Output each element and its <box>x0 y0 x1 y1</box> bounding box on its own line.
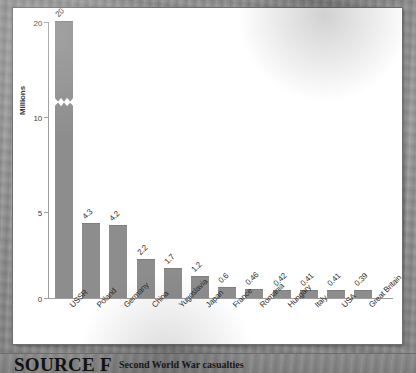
x-category-label: Poland <box>95 303 101 309</box>
x-category-label: Romania <box>258 303 264 309</box>
x-category-label: France <box>231 303 237 309</box>
bar-slot: 20 <box>51 7 78 298</box>
y-tick-label: 10 <box>34 113 43 122</box>
bar-slot: 2.2 <box>133 7 160 298</box>
y-tick-label: 5 <box>38 208 42 217</box>
bar-value-label: 0.39 <box>353 271 370 288</box>
bar-value-label: 4.3 <box>81 207 95 221</box>
y-axis-title: Millions <box>18 86 27 115</box>
x-category-label: Great Britain <box>367 303 373 309</box>
bar <box>327 290 345 298</box>
x-category-label: Italy <box>313 303 319 309</box>
bar-value-label: 2.2 <box>135 243 149 257</box>
x-category-label: USA <box>340 303 346 309</box>
page-background: Millions 051020 204.34.22.21.71.20.60.46… <box>0 0 416 373</box>
bar-slot: 0.46 <box>241 7 268 298</box>
y-tick-label: 20 <box>34 18 43 27</box>
bar-slot: 0.42 <box>269 7 296 298</box>
bar-slot: 1.2 <box>187 7 214 298</box>
bar-value-label: 0.46 <box>244 270 261 287</box>
source-strip: SOURCE F Second World War casualties <box>0 353 416 373</box>
bar-slot: 0.39 <box>350 7 377 298</box>
bar <box>82 223 100 298</box>
bar-upper-segment <box>55 21 73 95</box>
x-category-label: China <box>150 303 156 309</box>
axis-break-zigzag-lower <box>55 102 73 109</box>
x-axis-category-labels: USSRPolandGermanyChinaYugoslaviaJapanFra… <box>49 301 393 345</box>
bar-series: 204.34.22.21.71.20.60.460.420.410.410.39 <box>49 8 393 299</box>
bar-slot: 1.7 <box>160 7 187 298</box>
bar-slot: 4.2 <box>105 7 132 298</box>
bar-value-label: 4.2 <box>108 209 122 223</box>
bar-value-label: 20 <box>54 7 66 19</box>
bar-slot: 0.41 <box>296 7 323 298</box>
x-category-label: Japan <box>204 303 210 309</box>
source-label: SOURCE F <box>14 356 112 373</box>
bar-value-label: 0.6 <box>217 271 231 285</box>
source-caption: Second World War casualties <box>119 357 244 372</box>
x-category-label: Yugoslavia <box>177 303 183 309</box>
bar-value-label: 0.41 <box>326 271 343 288</box>
y-tick-label: 0 <box>38 294 42 303</box>
bar-lower-segment <box>55 109 73 298</box>
bar-slot: 4.3 <box>78 7 105 298</box>
x-category-label: Hungary <box>286 303 292 309</box>
x-category-label: USSR <box>68 303 74 309</box>
bar-value-label: 1.7 <box>162 252 176 266</box>
axis-break-zigzag-upper <box>55 95 73 102</box>
bar-slot: 0.6 <box>214 7 241 298</box>
x-category-label: Germany <box>122 303 128 309</box>
bar-slot: 0.41 <box>323 7 350 298</box>
chart-panel: Millions 051020 204.34.22.21.71.20.60.46… <box>13 8 402 344</box>
bar-value-label: 1.2 <box>190 261 204 275</box>
